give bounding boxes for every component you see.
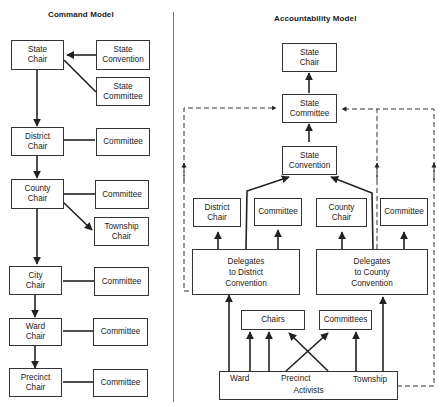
ward-label: Ward bbox=[230, 374, 249, 383]
activists-label: Activists bbox=[293, 386, 323, 396]
cm-county-chair: County Chair bbox=[11, 179, 64, 209]
cm-county-committee: Committee bbox=[95, 180, 149, 209]
am-county-chair: County Chair bbox=[316, 198, 367, 227]
am-district-chair: District Chair bbox=[193, 198, 241, 227]
am-county-committee: Committee bbox=[380, 198, 428, 226]
cm-ward-committee: Committee bbox=[93, 318, 148, 346]
cm-precinct-chair: Precinct Chair bbox=[9, 368, 62, 397]
precinct-label: Precinct bbox=[281, 374, 311, 383]
cm-district-committee: Committee bbox=[96, 128, 150, 156]
am-state-chair: State Chair bbox=[282, 43, 337, 72]
am-state-committee: State Committee bbox=[282, 94, 337, 123]
township-label: Township bbox=[353, 375, 387, 384]
am-state-convention: State Convention bbox=[282, 146, 337, 175]
am-chairs: Chairs bbox=[241, 310, 305, 330]
cm-state-committee: State Committee bbox=[96, 77, 150, 106]
cm-precinct-committee: Committee bbox=[93, 369, 148, 397]
cm-district-chair: District Chair bbox=[11, 127, 64, 156]
am-delegates-county: Delegates to County Convention bbox=[316, 249, 428, 295]
am-delegates-district: Delegates to District Convention bbox=[192, 249, 300, 295]
cm-state-chair: State Chair bbox=[11, 40, 64, 70]
am-committees: Committees bbox=[319, 310, 372, 330]
cm-ward-chair: Ward Chair bbox=[9, 318, 62, 346]
cm-city-chair: City Chair bbox=[9, 266, 62, 295]
cm-city-committee: Committee bbox=[94, 267, 149, 296]
cm-township-chair: Township Chair bbox=[94, 217, 149, 246]
cm-state-convention: State Convention bbox=[96, 40, 150, 70]
am-district-committee: Committee bbox=[254, 198, 302, 226]
